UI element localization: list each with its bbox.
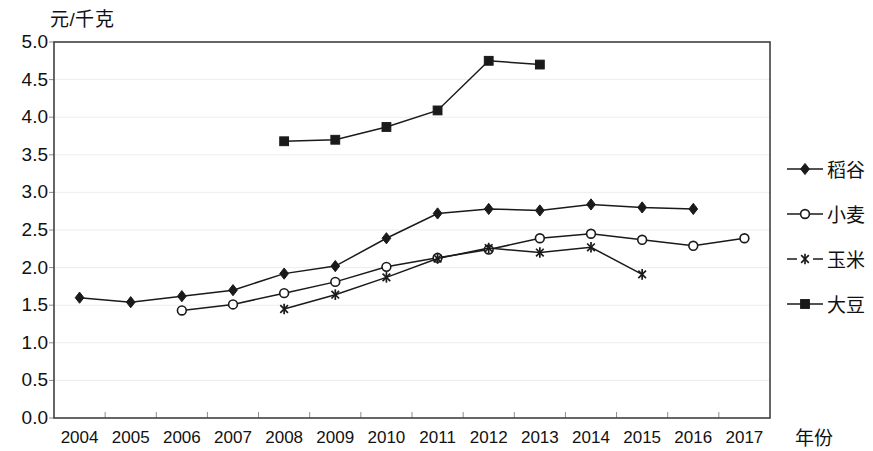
- x-tick-label: 2004: [61, 428, 99, 448]
- series-3: [280, 56, 545, 145]
- marker-circle: [382, 262, 391, 271]
- legend-label: 稻谷: [827, 155, 865, 182]
- marker-square: [331, 135, 340, 144]
- x-tick-label: 2012: [470, 428, 508, 448]
- legend-marker-icon: [786, 159, 824, 179]
- marker-diamond: [177, 291, 186, 302]
- legend-label: 玉米: [827, 245, 865, 272]
- marker-diamond: [689, 203, 698, 214]
- legend-marker-icon: [786, 204, 824, 224]
- y-tick-label: 4.0: [2, 106, 48, 128]
- gridlines: [54, 80, 770, 381]
- y-tick-label: 3.5: [2, 144, 48, 166]
- y-axis-unit-label: 元/千克: [50, 4, 114, 31]
- x-axis-title: 年份: [795, 423, 833, 450]
- marker-square: [382, 123, 391, 132]
- y-tick-label: 2.0: [2, 257, 48, 279]
- legend-item-2[interactable]: 玉米: [786, 236, 865, 281]
- legend-label: 大豆: [827, 290, 865, 317]
- marker-square: [280, 137, 289, 146]
- plot-area: [0, 0, 873, 451]
- marker-diamond: [229, 285, 238, 296]
- x-tick-label: 2011: [419, 428, 456, 448]
- series-0: [75, 199, 697, 308]
- marker-square: [801, 299, 810, 308]
- y-tick-label: 4.5: [2, 69, 48, 91]
- marker-square: [433, 106, 442, 115]
- y-tick-label: 1.0: [2, 332, 48, 354]
- marker-diamond: [638, 202, 647, 213]
- x-tick-label: 2016: [674, 428, 712, 448]
- price-trend-line-chart: 元/千克 年份 5.04.54.03.53.02.52.01.51.00.50.…: [0, 0, 873, 451]
- legend-item-1[interactable]: 小麦: [786, 191, 865, 236]
- y-tick-label: 2.5: [2, 219, 48, 241]
- marker-diamond: [433, 208, 442, 219]
- x-tick-label: 2015: [623, 428, 661, 448]
- legend-item-3[interactable]: 大豆: [786, 281, 865, 326]
- legend-label: 小麦: [827, 200, 865, 227]
- marker-circle: [280, 289, 289, 298]
- x-tick-label: 2013: [521, 428, 559, 448]
- x-tick-label: 2014: [572, 428, 610, 448]
- x-tick-label: 2010: [368, 428, 406, 448]
- y-tick-label: 5.0: [2, 31, 48, 53]
- series-line: [284, 61, 540, 141]
- legend-marker-icon: [786, 294, 824, 314]
- marker-diamond: [126, 297, 135, 308]
- y-tick-label: 3.0: [2, 181, 48, 203]
- marker-circle: [331, 277, 340, 286]
- marker-diamond: [75, 292, 84, 303]
- x-tick-label: 2009: [316, 428, 354, 448]
- marker-diamond: [484, 203, 493, 214]
- marker-square: [535, 60, 544, 69]
- marker-circle: [177, 306, 186, 315]
- marker-diamond: [587, 199, 596, 210]
- chart-legend: 稻谷小麦玉米大豆: [786, 146, 865, 326]
- marker-circle: [638, 235, 647, 244]
- marker-diamond: [801, 163, 810, 174]
- y-tick-label: 0.5: [2, 369, 48, 391]
- marker-circle: [535, 234, 544, 243]
- series-1: [177, 229, 748, 315]
- y-tick-label: 1.5: [2, 294, 48, 316]
- x-tick-label: 2007: [214, 428, 252, 448]
- series-line: [182, 234, 745, 311]
- marker-circle: [740, 234, 749, 243]
- x-tick-label: 2005: [112, 428, 150, 448]
- marker-diamond: [382, 233, 391, 244]
- legend-marker-icon: [786, 249, 824, 269]
- marker-circle: [229, 300, 238, 309]
- marker-square: [484, 56, 493, 65]
- x-tick-label: 2017: [726, 428, 764, 448]
- marker-circle: [689, 241, 698, 250]
- x-tick-label: 2006: [163, 428, 201, 448]
- marker-diamond: [280, 268, 289, 279]
- marker-circle: [587, 229, 596, 238]
- marker-circle: [801, 209, 810, 218]
- marker-diamond: [331, 260, 340, 271]
- legend-item-0[interactable]: 稻谷: [786, 146, 865, 191]
- x-tick-label: 2008: [265, 428, 303, 448]
- data-series-layer: [75, 56, 749, 314]
- y-tick-label: 0.0: [2, 407, 48, 429]
- marker-diamond: [535, 205, 544, 216]
